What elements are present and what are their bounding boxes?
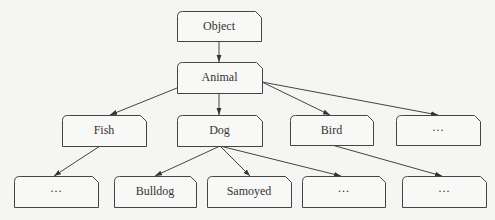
edge-dog-to-dog-more [220, 146, 341, 176]
inheritance-diagram: ObjectAnimalFishDogBird······BulldogSamo… [0, 0, 495, 220]
node-label-animal-more: ··· [396, 115, 480, 145]
node-label-dog: Dog [177, 115, 262, 146]
edge-dog-to-samoyed [220, 146, 250, 176]
node-label-fish: Fish [62, 115, 146, 146]
node-label-bulldog: Bulldog [114, 176, 196, 207]
node-label-animal: Animal [177, 62, 262, 93]
node-label-bird-more: ··· [402, 176, 486, 207]
node-label-object: Object [177, 11, 261, 41]
edge-fish-to-fish-more [54, 146, 100, 176]
node-label-samoyed: Samoyed [207, 176, 291, 207]
edge-animal-to-bird [262, 82, 330, 115]
edge-animal-to-animal-more [262, 82, 438, 115]
edge-animal-to-fish [110, 88, 177, 115]
node-label-bird: Bird [290, 115, 373, 145]
node-label-dog-more: ··· [302, 176, 385, 207]
node-label-fish-more: ··· [14, 176, 98, 207]
edge-dog-to-bulldog [155, 146, 220, 176]
edge-bird-to-bird-more [332, 145, 442, 176]
